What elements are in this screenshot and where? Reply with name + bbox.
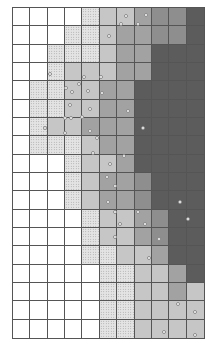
grid-cell: [65, 8, 82, 26]
grid-cell: [30, 100, 47, 118]
grid-cell: [13, 210, 30, 228]
grid-cell: [100, 26, 117, 44]
grid-cell: [82, 173, 99, 191]
grid-cell: [65, 118, 82, 136]
grid-cell: [152, 246, 169, 264]
grid-cell: [13, 63, 30, 81]
grid-cell: [152, 155, 169, 173]
grid-cell: [13, 265, 30, 283]
grid-cell: [65, 283, 82, 301]
grid-cell: [100, 173, 117, 191]
grid-cell: [169, 45, 186, 63]
grid-cell: [30, 210, 47, 228]
grid-cell: [135, 81, 152, 99]
grid-cell: [100, 118, 117, 136]
grid-cell: [48, 136, 65, 154]
grid-cell: [13, 283, 30, 301]
grid-cell: [152, 301, 169, 319]
grid-cell: [65, 136, 82, 154]
grid-cell: [30, 26, 47, 44]
grid-cell: [30, 301, 47, 319]
grid-cell: [82, 191, 99, 209]
grid-cell: [13, 8, 30, 26]
grid-cell: [82, 155, 99, 173]
grid-cell: [30, 173, 47, 191]
grid-cell: [152, 210, 169, 228]
grid-cell: [169, 81, 186, 99]
grid-cell: [48, 210, 65, 228]
grid-cell: [152, 81, 169, 99]
grid-cell: [169, 26, 186, 44]
grid-cell: [48, 45, 65, 63]
grid-cell: [187, 26, 204, 44]
grid-cell: [135, 100, 152, 118]
grid-cell: [117, 301, 134, 319]
grid-cell: [169, 246, 186, 264]
grid-cell: [65, 265, 82, 283]
grid-cell: [117, 173, 134, 191]
grid-cell: [82, 118, 99, 136]
grid-cell: [169, 283, 186, 301]
grid-cell: [135, 118, 152, 136]
grid-cell: [82, 283, 99, 301]
grid-cell: [48, 320, 65, 338]
grid-cell: [100, 136, 117, 154]
grid-cell: [82, 45, 99, 63]
grid-cell: [30, 191, 47, 209]
grid-cell: [30, 118, 47, 136]
grid-cell: [117, 210, 134, 228]
grid-cell: [48, 155, 65, 173]
grid-cell: [152, 136, 169, 154]
grid-cell: [117, 118, 134, 136]
grid-cell: [135, 155, 152, 173]
grid-cell: [48, 81, 65, 99]
grid-cell: [82, 320, 99, 338]
grid-cell: [169, 155, 186, 173]
grid-cell: [152, 283, 169, 301]
grid-cell: [100, 100, 117, 118]
grid-cell: [100, 191, 117, 209]
grid-cell: [117, 63, 134, 81]
grid-cell: [187, 246, 204, 264]
grid-cell: [135, 191, 152, 209]
grid-cell: [117, 246, 134, 264]
grid-cell: [65, 210, 82, 228]
grid-cell: [117, 136, 134, 154]
grid-cell: [100, 320, 117, 338]
grid-cell: [152, 228, 169, 246]
grid-cell: [13, 191, 30, 209]
grid-cell: [187, 301, 204, 319]
grid-cell: [117, 81, 134, 99]
grid-cell: [187, 100, 204, 118]
grid-cell: [135, 301, 152, 319]
grid-cell: [135, 246, 152, 264]
grid-cell: [65, 320, 82, 338]
grid-cell: [48, 301, 65, 319]
grid-cell: [117, 45, 134, 63]
grid-cell: [13, 246, 30, 264]
grid-cell: [117, 191, 134, 209]
grid-cell: [48, 246, 65, 264]
grid-cell: [82, 301, 99, 319]
grid-cell: [30, 265, 47, 283]
grid-cell: [82, 63, 99, 81]
grid-cell: [187, 81, 204, 99]
grid-cell: [187, 45, 204, 63]
grid-cell: [65, 191, 82, 209]
grid-cell: [48, 63, 65, 81]
grid-cell: [169, 191, 186, 209]
grid-cell: [100, 265, 117, 283]
grid-cell: [100, 246, 117, 264]
grid-cell: [13, 320, 30, 338]
grid-cell: [13, 155, 30, 173]
grid-cell: [152, 118, 169, 136]
grid-cell: [187, 173, 204, 191]
grid-cell: [117, 8, 134, 26]
grid-cell: [82, 81, 99, 99]
grid-cell: [30, 283, 47, 301]
grid-cell: [135, 136, 152, 154]
grid-cell: [169, 320, 186, 338]
grid-cell: [100, 45, 117, 63]
grid-cell: [187, 320, 204, 338]
grid-cell: [13, 45, 30, 63]
